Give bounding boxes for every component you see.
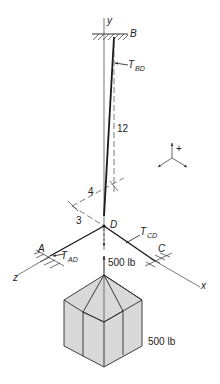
z-axis-label: z: [12, 272, 18, 283]
dim-12-label: 12: [117, 123, 129, 134]
sign-plus: +: [176, 143, 182, 154]
ceiling-support-b: [92, 34, 128, 40]
tbd-label: T: [128, 59, 135, 70]
wall-support-c: [145, 253, 172, 267]
weight-label: 500 lb: [148, 336, 176, 347]
z-axis: [18, 256, 50, 275]
tcd-subscript: CD: [147, 232, 157, 239]
force-d-label: 500 lb: [108, 257, 136, 268]
tcd-arrow: [126, 235, 140, 243]
equilibrium-diagram: y B T BD 12 4 3 D z x A T AD: [0, 0, 220, 384]
sign-convention-icon: [158, 143, 187, 167]
x-axis-label: x: [200, 280, 207, 291]
tcd-label: T: [140, 226, 147, 237]
cable-ad: [50, 226, 104, 256]
tbd-subscript: BD: [135, 65, 145, 72]
x-axis: [155, 261, 200, 287]
point-a-label: A: [37, 243, 45, 254]
cable-bd: [104, 37, 114, 216]
dim-3-tick: [68, 201, 78, 211]
point-b-label: B: [130, 28, 137, 39]
tad-subscript: AD: [67, 256, 78, 263]
dim-4-label: 4: [88, 186, 94, 197]
dim-3-label: 3: [76, 215, 82, 226]
y-axis-label: y: [106, 15, 113, 26]
weight-block: [64, 275, 142, 367]
tad-label: T: [61, 250, 68, 261]
point-c-label: C: [158, 243, 166, 254]
point-d-label: D: [110, 219, 117, 230]
tbd-arrow: [115, 63, 128, 65]
dim-4-dashed: [72, 178, 124, 206]
